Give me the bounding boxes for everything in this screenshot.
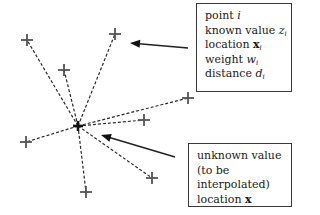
distance-line: [78, 98, 188, 126]
known-point-cross-icon: [138, 114, 150, 126]
unknown-box-line-2: (to be: [197, 164, 291, 179]
known-box-line-distance: distance di: [205, 67, 291, 82]
known-point-cross-icon: [80, 186, 92, 198]
unknown-box-line-3: interpolated): [197, 178, 291, 193]
distance-line: [64, 70, 78, 126]
known-point-cross-icon: [21, 34, 33, 46]
unknown-point-marker: [73, 121, 83, 131]
callout-arrows: [101, 40, 188, 157]
distance-line: [26, 126, 78, 142]
known-point-cross-icon: [182, 92, 194, 104]
distance-line: [78, 126, 152, 178]
unknown-box-line-4: location x: [197, 193, 291, 208]
known-point-cross-icon: [58, 64, 70, 76]
known-box-line-value: known value zi: [205, 24, 291, 39]
known-point-info-box: point i known value zi location xi weigh…: [196, 3, 292, 92]
known-box-line-point: point i: [205, 9, 291, 24]
known-point-markers: [20, 28, 194, 198]
known-point-cross-icon: [146, 172, 158, 184]
unknown-point-info-box: unknown value (to be interpolated) locat…: [188, 143, 292, 207]
distance-lines: [26, 34, 188, 192]
known-box-line-weight: weight wi: [205, 53, 291, 68]
distance-line: [78, 126, 86, 192]
arrowhead-icon: [130, 40, 140, 48]
known-point-cross-icon: [109, 28, 121, 40]
known-point-cross-icon: [20, 136, 32, 148]
unknown-point-arrow: [107, 137, 175, 157]
known-box-line-location: location xi: [205, 38, 291, 53]
known-point-arrow: [136, 44, 188, 48]
distance-line: [78, 34, 115, 126]
distance-line: [27, 40, 78, 126]
unknown-box-line-1: unknown value: [197, 149, 291, 164]
arrowhead-icon: [101, 134, 112, 142]
